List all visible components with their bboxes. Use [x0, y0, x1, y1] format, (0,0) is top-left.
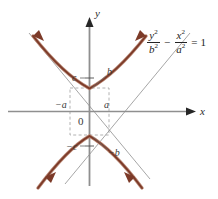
x-axis-label: x	[199, 105, 205, 117]
y-axis-arrowhead	[86, 17, 94, 27]
equation-label: y2 b2 − x2 a2 = 1	[146, 30, 206, 55]
asymptotes	[29, 33, 190, 184]
y-axis	[86, 17, 94, 186]
x-axis-arrowhead	[186, 108, 196, 116]
equation-fraction-x-over-a: x2 a2	[174, 30, 187, 55]
origin-label: 0	[78, 115, 84, 127]
equation-denominator-2: a2	[174, 43, 187, 55]
label-b-positive: b	[107, 66, 112, 77]
equation-numerator-1: y2	[147, 30, 159, 43]
label-a-positive: a	[104, 99, 109, 110]
b-leader-line	[92, 76, 106, 88]
equation-denominator-1: b2	[147, 43, 160, 55]
equation-fraction-y-over-b: y2 b2	[147, 30, 160, 55]
y-axis-label: y	[94, 7, 100, 19]
equation-equals-sign: =	[191, 37, 197, 48]
equation-operator: −	[164, 37, 170, 48]
equation-numerator-2: x2	[175, 30, 187, 43]
label-c-positive: c	[72, 72, 77, 83]
label-c-negative: −c	[66, 141, 78, 152]
x-axis	[8, 108, 196, 116]
label-b-negative: −b	[108, 147, 120, 158]
label-a-negative: −a	[55, 99, 67, 110]
hyperbola-figure: x y 0 a −a b −b c −c y2 b2 − x2 a2 = 1	[0, 0, 218, 199]
equation-right-hand-side: 1	[200, 37, 206, 48]
